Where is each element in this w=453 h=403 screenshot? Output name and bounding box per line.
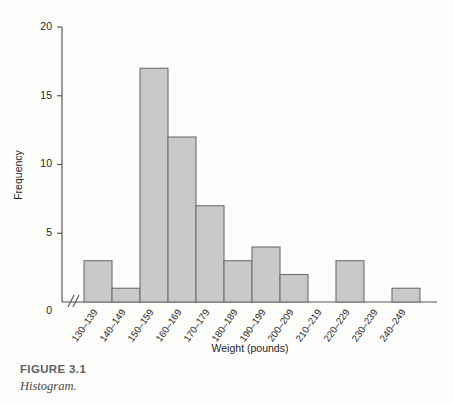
figure-container: 05101520 Frequency 130–139140–149150–159…: [0, 0, 453, 403]
figure-caption: FIGURE 3.1 Histogram.: [20, 362, 280, 394]
x-tick-label: 240–249: [377, 307, 407, 344]
histogram-bar: [140, 68, 168, 302]
x-tick-label: 200–209: [265, 307, 295, 344]
x-tick-label: 170–179: [181, 307, 211, 344]
figure-caption-subtitle: Histogram.: [20, 378, 280, 394]
y-tick-marks: [57, 27, 62, 233]
x-tick-label: 230–239: [349, 307, 379, 344]
x-tick-label: 220–229: [321, 307, 351, 344]
y-axis-title: Frequency: [12, 149, 24, 199]
histogram-bar: [168, 137, 196, 302]
y-tick-labels: 05101520: [40, 20, 52, 316]
y-axis-group: 05101520 Frequency: [12, 20, 62, 316]
histogram-bar: [252, 247, 280, 302]
figure-caption-title: FIGURE 3.1: [20, 362, 280, 377]
histogram-bar: [336, 261, 364, 302]
x-tick-label: 150–159: [125, 307, 155, 344]
x-tick-label: 180–189: [209, 307, 239, 344]
x-tick-label: 160–169: [153, 307, 183, 344]
y-tick-label: 5: [46, 226, 52, 238]
histogram-bar: [196, 206, 224, 302]
y-tick-label: 15: [40, 89, 52, 101]
y-tick-label: 20: [40, 20, 52, 32]
bars-group: [84, 68, 420, 302]
histogram-bar: [224, 261, 252, 302]
histogram-bar: [84, 261, 112, 302]
x-tick-labels: 130–139140–149150–159160–169170–179180–1…: [69, 307, 407, 344]
axis-break-mark: [68, 295, 79, 307]
x-axis-title: Weight (pounds): [212, 342, 289, 354]
histogram-bar: [112, 288, 140, 302]
x-tick-label: 210–219: [293, 307, 323, 344]
histogram-plot: 05101520 Frequency 130–139140–149150–159…: [0, 0, 453, 360]
histogram-svg: 05101520 Frequency 130–139140–149150–159…: [0, 0, 453, 360]
y-tick-label: 10: [40, 157, 52, 169]
y-tick-label: 0: [46, 304, 52, 316]
x-axis-group: 130–139140–149150–159160–169170–179180–1…: [62, 295, 437, 354]
histogram-bar: [392, 288, 420, 302]
histogram-bar: [280, 275, 308, 303]
x-tick-label: 140–149: [97, 307, 127, 344]
x-tick-label: 130–139: [69, 307, 99, 344]
x-tick-label: 190–199: [237, 307, 267, 344]
